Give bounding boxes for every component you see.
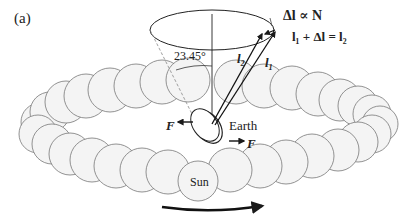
vector-l1-label: l₁	[265, 56, 273, 69]
sun-label: Sun	[190, 176, 209, 188]
orbit-direction-arrow	[162, 206, 262, 210]
force-left-label: F	[166, 119, 175, 132]
equation-sum: l₁ + Δl = l₂	[292, 30, 347, 43]
earth-label: Earth	[229, 119, 257, 132]
equation-proportional: Δl ∝ N	[283, 9, 322, 23]
earth-disc	[185, 103, 228, 148]
tilt-angle-label: 23.45°	[174, 50, 206, 62]
panel-label: (a)	[14, 11, 31, 26]
force-right-label: F	[247, 137, 256, 150]
vector-l2-label: l₂	[237, 52, 245, 65]
